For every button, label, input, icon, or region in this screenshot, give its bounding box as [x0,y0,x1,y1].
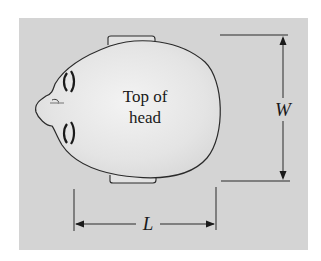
arrow-left-icon [75,221,84,228]
head-label-line1: Top of [110,86,180,107]
head-label-line2: head [110,107,180,128]
width-label: W [272,98,294,121]
arrow-right-icon [206,221,215,228]
arrow-up-icon [280,36,287,45]
length-label: L [136,214,160,233]
head-label: Top of head [110,86,180,128]
head-diagram [0,0,321,261]
arrow-down-icon [280,171,287,180]
